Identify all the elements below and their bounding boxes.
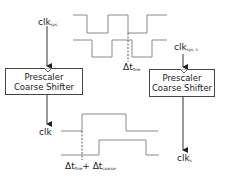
- clock-input-triangle-icon: [180, 69, 188, 73]
- left-input-label: clksys: [38, 17, 57, 29]
- left-output-label: clk: [39, 127, 52, 137]
- top-waveform-sys-s: [73, 40, 167, 57]
- right-input-label: clksys, s: [174, 42, 198, 54]
- left-box-line2: Coarse Shifter: [14, 82, 74, 92]
- right-box-line2: Coarse Shifter: [152, 83, 212, 93]
- right-prescaler-box: Prescaler Coarse Shifter: [149, 69, 215, 97]
- fine-delay-label: Δtfine: [123, 62, 140, 74]
- right-output-label: clks: [177, 153, 192, 165]
- bottom-waveform-clk-s: [61, 140, 159, 155]
- clock-input-triangle-icon: [44, 68, 52, 72]
- timing-diagram: clksys Prescaler Coarse Shifter clk clks…: [0, 0, 233, 183]
- left-prescaler-box: Prescaler Coarse Shifter: [5, 68, 83, 95]
- left-box-line1: Prescaler: [25, 72, 64, 82]
- total-delay-label: Δtfine+ Δtcoarse: [65, 161, 116, 173]
- right-box-line1: Prescaler: [163, 73, 202, 83]
- bottom-waveform-clk: [61, 114, 158, 131]
- top-waveform-sys: [73, 15, 167, 33]
